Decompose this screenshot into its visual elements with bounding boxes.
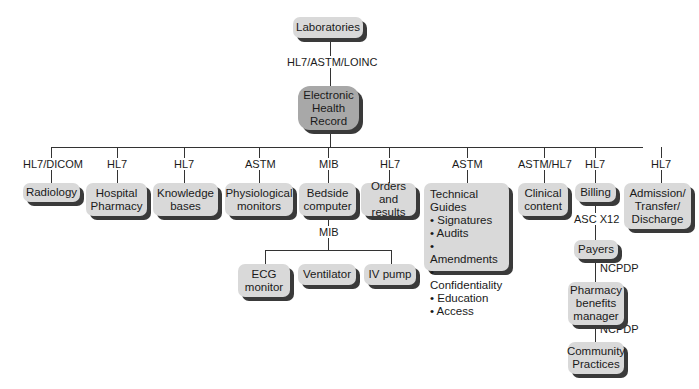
node-bedside-computer: Bedside computer <box>299 183 356 216</box>
link-label: HL7 <box>650 158 672 170</box>
link-label: HL7 <box>173 158 195 170</box>
node-knowledge-bases: Knowledge bases <box>153 183 218 216</box>
connector-line <box>330 130 331 147</box>
list-item: Education <box>430 292 503 305</box>
link-label: HL7/ASTM/LOINC <box>286 56 378 68</box>
list-item: Amendments <box>430 240 503 266</box>
node-pharmacy-benefits-manager: Pharmacy benefits manager <box>568 282 624 325</box>
link-label: HL7 <box>106 158 128 170</box>
link-label: ASTM <box>244 158 277 170</box>
node-orders-and-results: Orders and results <box>361 183 416 216</box>
node-clinical-content: Clinical content <box>518 183 568 216</box>
node-payers: Payers <box>574 240 618 259</box>
link-label: MIB <box>318 226 340 238</box>
connector-line <box>391 250 392 264</box>
node-ventilator: Ventilator <box>298 264 356 285</box>
link-label: ASTM <box>451 158 484 170</box>
node-ecg-monitor: ECG monitor <box>238 264 290 297</box>
connector-line <box>265 250 266 264</box>
node-electronic-health-record: Electronic Health Record <box>298 86 359 130</box>
node-admission-transfer-discharge: Admission/ Transfer/ Discharge <box>624 183 691 229</box>
link-label: MIB <box>318 158 340 170</box>
link-label: HL7 <box>379 158 401 170</box>
trunk-line <box>51 147 643 148</box>
link-label: HL7/DICOM <box>22 158 84 170</box>
list-item: Signatures <box>430 214 503 227</box>
node-technical-guides: Technical Guides Signatures Audits Amend… <box>424 183 509 271</box>
link-label: ASTM/HL7 <box>517 158 573 170</box>
node-iv-pump: IV pump <box>364 264 416 285</box>
list-item: Audits <box>430 227 503 240</box>
node-radiology: Radiology <box>23 183 80 202</box>
link-label: ASC X12 <box>573 213 620 225</box>
link-label: NCPDP <box>599 262 640 274</box>
list-item: Confidentiality <box>430 266 503 292</box>
connector-line <box>265 250 391 251</box>
list-item: Access <box>430 305 503 318</box>
node-billing: Billing <box>575 183 616 202</box>
node-community-practices: Community Practices <box>568 342 624 374</box>
link-label: HL7 <box>584 158 606 170</box>
node-physiological-monitors: Physiological monitors <box>225 183 293 216</box>
node-hospital-pharmacy: Hospital Pharmacy <box>86 183 147 216</box>
technical-guides-list: Signatures Audits Amendments Confidentia… <box>430 214 503 318</box>
node-laboratories: Laboratories <box>293 17 363 38</box>
